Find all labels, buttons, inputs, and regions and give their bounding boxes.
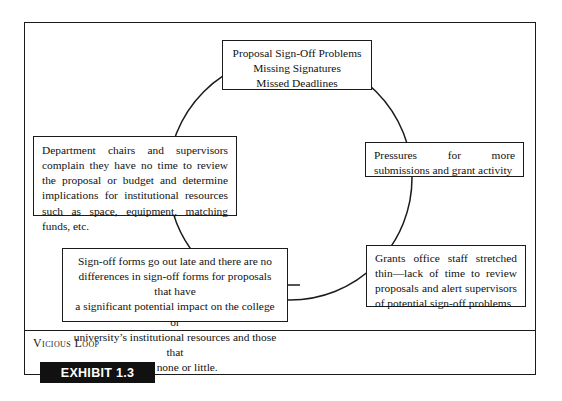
exhibit-figure: Proposal Sign-Off Problems Missing Signa… [0, 0, 562, 401]
figure-caption: Vicious Loop [33, 336, 99, 351]
exhibit-number-tag: EXHIBIT 1.3 [40, 362, 155, 383]
node-bottom-right-text: Grants office staff stretched thin—lack … [375, 251, 517, 312]
node-top-line-2: Missing Signatures [230, 61, 364, 76]
node-bottom-center-line-4: university’s institutional resources and… [70, 330, 280, 360]
node-left-text: Department chairs and supervisors compla… [42, 143, 228, 234]
caption-divider [24, 330, 536, 331]
node-bottom-center-line-2: differences in sign-off forms for propos… [70, 269, 280, 299]
node-proposal-sign-off-problems: Proposal Sign-Off Problems Missing Signa… [222, 40, 372, 90]
node-right-text: Pressures for more submissions and grant… [374, 148, 515, 178]
node-top-line-3: Missed Deadlines [230, 76, 364, 91]
node-pressures-for-more-submissions: Pressures for more submissions and grant… [365, 142, 524, 177]
node-department-chairs-complain: Department chairs and supervisors compla… [33, 136, 237, 216]
node-bottom-center-line-3: a significant potential impact on the co… [70, 299, 280, 329]
node-bottom-center-line-1: Sign-off forms go out late and there are… [70, 254, 280, 269]
node-top-line-1: Proposal Sign-Off Problems [230, 46, 364, 61]
node-grants-office-stretched-thin: Grants office staff stretched thin—lack … [366, 245, 526, 307]
node-sign-off-forms-late: Sign-off forms go out late and there are… [62, 248, 288, 322]
